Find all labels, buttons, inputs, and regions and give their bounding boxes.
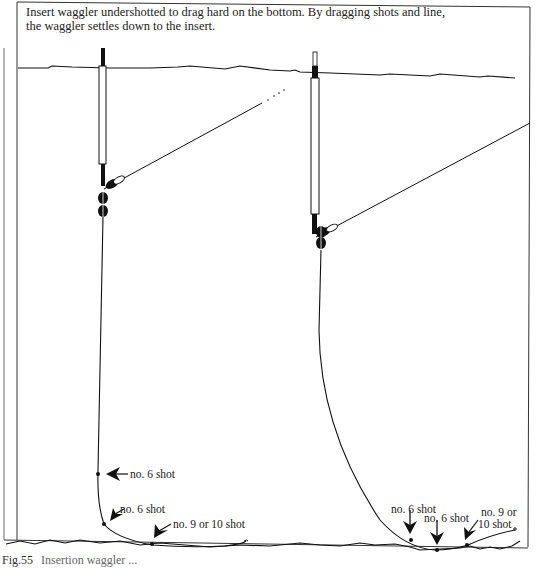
- label-right-shot-b: no. 6 shot: [424, 512, 469, 524]
- figure-number: Fig.55: [2, 553, 33, 567]
- figure-border: [3, 2, 531, 548]
- right-waggler-float: [311, 52, 319, 234]
- label-left-shot-bottom: no. 9 or 10 shot: [173, 518, 245, 530]
- figure-caption: Fig.55Insertion waggler ...: [2, 553, 137, 568]
- left-shot-upper-dot: [96, 472, 100, 476]
- figure-header-text: Insert waggler undershotted to drag hard…: [26, 5, 526, 33]
- label-right-shot-c-line1: no. 9 or: [481, 506, 516, 518]
- header-line-2: the waggler settles down to the insert.: [26, 19, 526, 33]
- right-shot-a-dot: [409, 538, 413, 542]
- figure-caption-text: Insertion waggler ...: [41, 553, 137, 567]
- left-waggler-float: [99, 48, 106, 186]
- left-shot-bottom-dot: [150, 542, 154, 546]
- left-dotted-continuation: [267, 89, 285, 101]
- right-main-line-to-rod: [316, 123, 530, 237]
- left-shot-lower-dot: [102, 522, 106, 526]
- water-surface-line: [18, 66, 515, 78]
- right-shot-b-dot: [435, 548, 439, 552]
- left-main-line-to-rod: [104, 103, 262, 189]
- right-hook-end: [514, 528, 516, 530]
- label-left-shot-upper: no. 6 shot: [130, 468, 175, 480]
- left-float-adaptor: [104, 174, 126, 191]
- diagram-canvas: [0, 0, 545, 569]
- left-hook-end: [244, 540, 248, 541]
- right-locking-shots: [315, 225, 326, 250]
- left-arrow-shot-bottom-icon: [154, 524, 171, 538]
- header-line-1: Insert waggler undershotted to drag hard…: [26, 5, 526, 19]
- left-hook-line: [98, 217, 246, 547]
- left-locking-shots: [98, 190, 108, 218]
- label-left-shot-lower: no. 6 shot: [120, 503, 165, 515]
- label-right-shot-c-line2: 10 shot: [478, 518, 512, 530]
- left-arrow-shot-upper-icon: [106, 467, 128, 481]
- right-shot-c-dot: [465, 543, 469, 547]
